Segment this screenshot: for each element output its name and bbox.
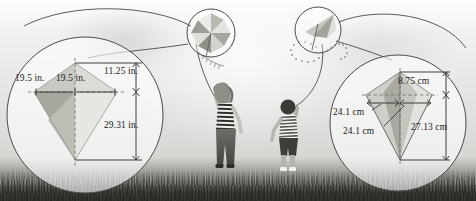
kite-illustration: 19.5 in. 19.5 in. 11.25 in. 29.31 in. — [0, 0, 476, 201]
label-right-half-width-right: 24.1 cm — [343, 126, 374, 136]
label-right-half-width-left: 24.1 cm — [333, 107, 364, 117]
right-callout-group — [0, 0, 476, 201]
label-right-lower-height: 27.13 cm — [411, 122, 447, 132]
label-right-upper-height: 8.75 cm — [398, 76, 429, 86]
